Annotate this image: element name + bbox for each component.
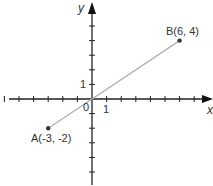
point-a-label: A(-3, -2) (31, 132, 71, 144)
point-b (177, 38, 181, 42)
coordinate-plane: y x 0 1 1 B(6, 4) A(-3, -2) (0, 0, 213, 186)
origin-label: 0 (83, 101, 89, 113)
y-axis-arrow-icon (88, 2, 96, 14)
x-axis-label: x (206, 103, 213, 117)
x-axis-arrow-icon (202, 95, 213, 103)
point-a (46, 126, 50, 130)
segment-ab (48, 41, 179, 129)
y-unit-label: 1 (80, 78, 86, 90)
point-b-label: B(6, 4) (166, 25, 199, 37)
y-axis-label: y (77, 1, 85, 15)
x-unit-label: 1 (103, 103, 109, 115)
